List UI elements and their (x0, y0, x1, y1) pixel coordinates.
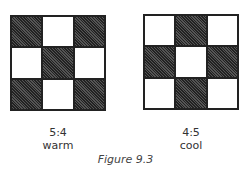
name-cool: cool (143, 139, 239, 152)
dark-square (74, 16, 105, 47)
light-square (42, 79, 73, 110)
checkerboard-warm (10, 15, 106, 111)
light-square (42, 16, 73, 47)
light-square (207, 78, 238, 109)
dark-square (74, 79, 105, 110)
figure-caption: Figure 9.3 (0, 153, 251, 166)
light-square (144, 78, 175, 109)
light-square (207, 15, 238, 46)
dark-square (11, 16, 42, 47)
name-warm: warm (10, 139, 106, 152)
dark-square (175, 78, 206, 109)
dark-square (144, 46, 175, 77)
label-warm: 5:4 warm (10, 126, 106, 152)
light-square (144, 15, 175, 46)
dark-square (42, 47, 73, 78)
label-cool: 4:5 cool (143, 126, 239, 152)
dark-square (11, 79, 42, 110)
light-square (175, 46, 206, 77)
ratio-warm: 5:4 (10, 126, 106, 139)
ratio-cool: 4:5 (143, 126, 239, 139)
checkerboard-cool (143, 14, 239, 110)
light-square (11, 47, 42, 78)
light-square (74, 47, 105, 78)
dark-square (207, 46, 238, 77)
dark-square (175, 15, 206, 46)
